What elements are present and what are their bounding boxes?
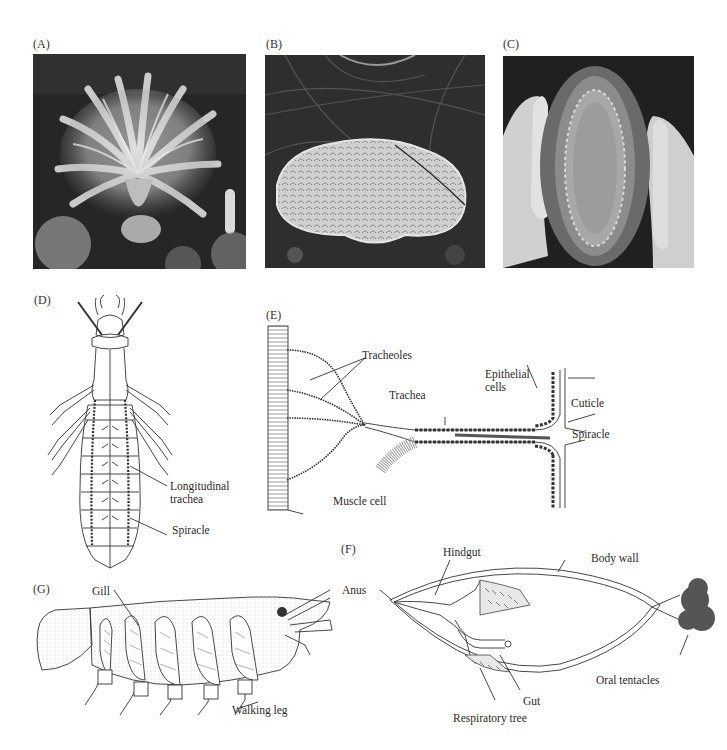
diagram-e-trachea bbox=[265, 320, 595, 520]
label-body-wall: Body wall bbox=[591, 552, 639, 565]
label-longitudinal-trachea-2: trachea bbox=[170, 493, 203, 506]
panel-label-a: (A) bbox=[33, 37, 50, 52]
label-oral-tentacles: Oral tentacles bbox=[596, 674, 660, 687]
photo-a-feather-crown bbox=[33, 54, 246, 269]
label-anus: Anus bbox=[342, 584, 366, 597]
label-epithelial-cells-1: Epithelial bbox=[485, 368, 530, 381]
label-gill: Gill bbox=[92, 585, 110, 598]
label-respiratory-tree: Respiratory tree bbox=[453, 712, 527, 725]
label-hindgut: Hindgut bbox=[443, 546, 481, 559]
panel-label-c: (C) bbox=[503, 37, 519, 52]
diagram-g-crayfish bbox=[30, 590, 330, 720]
label-spiracle-d: Spiracle bbox=[172, 524, 210, 537]
panel-label-b: (B) bbox=[266, 37, 282, 52]
photo-c-held-animal bbox=[503, 56, 694, 268]
label-walking-leg: Walking leg bbox=[232, 704, 288, 717]
label-gut: Gut bbox=[523, 695, 540, 708]
flat-organism-illustration bbox=[265, 55, 485, 268]
feather-crown-illustration bbox=[33, 54, 246, 269]
label-trachea: Trachea bbox=[389, 389, 426, 402]
panel-label-f: (F) bbox=[341, 542, 356, 557]
photo-b-flat-organism bbox=[265, 55, 485, 268]
label-tracheoles: Tracheoles bbox=[362, 349, 412, 362]
held-animal-illustration bbox=[503, 56, 694, 268]
label-muscle-cell: Muscle cell bbox=[333, 495, 386, 508]
diagram-f-sea-cucumber bbox=[380, 560, 720, 690]
diagram-d-larva bbox=[40, 290, 180, 580]
label-longitudinal-trachea-1: Longitudinal bbox=[170, 480, 229, 493]
label-spiracle-e: Spiracle bbox=[572, 428, 610, 441]
label-epithelial-cells-2: cells bbox=[485, 381, 506, 394]
label-cuticle: Cuticle bbox=[571, 397, 604, 410]
